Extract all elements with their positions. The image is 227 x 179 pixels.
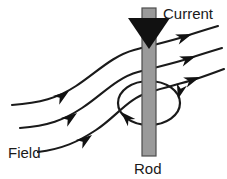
field-label: Field xyxy=(8,144,41,161)
field-line-2 xyxy=(20,48,222,128)
field-arrowhead-right-1 xyxy=(175,29,194,45)
current-direction-arrow xyxy=(128,18,170,49)
field-line-group xyxy=(12,26,224,152)
field-line-3 xyxy=(38,69,224,152)
rod-label: Rod xyxy=(134,160,162,177)
field-arrowhead-right-3 xyxy=(183,72,202,88)
physics-diagram: Current Field Rod xyxy=(0,0,227,179)
current-label: Current xyxy=(163,5,214,22)
field-arrowhead-right-2 xyxy=(179,51,198,67)
diagram-canvas: Current Field Rod xyxy=(0,0,227,179)
field-arrowhead-left-group xyxy=(53,87,95,149)
